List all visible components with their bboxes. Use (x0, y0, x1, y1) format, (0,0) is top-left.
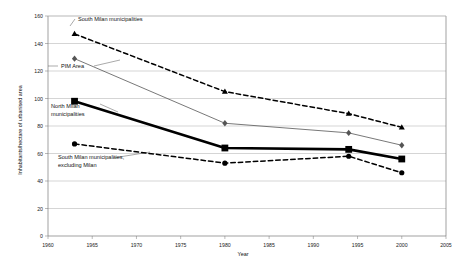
annotation-leader-lines (48, 19, 150, 158)
y-tick-labels: 020406080100120140160 (34, 13, 43, 239)
y-tick-label: 60 (37, 151, 43, 157)
series-annotation-label: municipalities (51, 111, 85, 117)
y-tick-label: 160 (34, 13, 43, 19)
series-2 (72, 55, 404, 148)
y-tick-label: 0 (40, 233, 43, 239)
series-annotations: South Milan municipalitiesPIM AreaNorth … (51, 16, 143, 168)
y-tick-label: 120 (34, 68, 43, 74)
series-annotation-label: excluding Milan (58, 162, 97, 168)
x-tick-label: 1965 (86, 242, 98, 248)
series-line (75, 34, 402, 128)
y-axis-title: Inhabitants/hectare of urbanised area (17, 85, 23, 174)
series-line (75, 59, 402, 146)
data-point-marker (72, 55, 77, 61)
x-axis-title: Year (238, 251, 249, 257)
data-point-marker (221, 145, 228, 152)
series-annotation-label: South Milan municipalities (78, 16, 143, 22)
x-tick-label: 1980 (219, 242, 231, 248)
annotation-leader (70, 19, 75, 26)
data-point-marker (346, 154, 351, 159)
x-tick-label: 2005 (440, 242, 452, 248)
x-tick-label: 1970 (131, 242, 143, 248)
series-annotation-label: North Milan (51, 103, 80, 109)
x-tick-marks (48, 236, 446, 239)
x-tick-label: 1985 (263, 242, 275, 248)
data-point-marker (72, 31, 78, 36)
x-tick-labels: 1960196519701975198019851990199520002005 (42, 242, 452, 248)
y-tick-marks (45, 16, 48, 236)
data-point-marker (398, 156, 405, 163)
data-point-marker (399, 170, 404, 175)
y-tick-label: 140 (34, 41, 43, 47)
y-tick-label: 20 (37, 206, 43, 212)
x-tick-label: 1960 (42, 242, 54, 248)
y-tick-label: 40 (37, 178, 43, 184)
data-point-marker (345, 146, 352, 153)
y-tick-label: 100 (34, 96, 43, 102)
series-annotation-label: PIM Area (61, 63, 85, 69)
x-tick-label: 1990 (308, 242, 320, 248)
x-tick-label: 2000 (396, 242, 408, 248)
y-tick-label: 80 (37, 123, 43, 129)
annotation-leader (94, 60, 120, 66)
x-tick-label: 1995 (352, 242, 364, 248)
series-3 (71, 98, 405, 163)
data-point-marker (346, 130, 351, 136)
data-point-marker (222, 120, 227, 126)
x-tick-label: 1975 (175, 242, 187, 248)
data-point-marker (72, 141, 77, 146)
chart-container: 020406080100120140160 196019651970197519… (0, 0, 474, 264)
data-point-marker (222, 161, 227, 166)
data-point-marker (399, 142, 404, 148)
line-chart: 020406080100120140160 196019651970197519… (0, 0, 474, 264)
series-annotation-label: South Milan municipalities, (58, 154, 125, 160)
